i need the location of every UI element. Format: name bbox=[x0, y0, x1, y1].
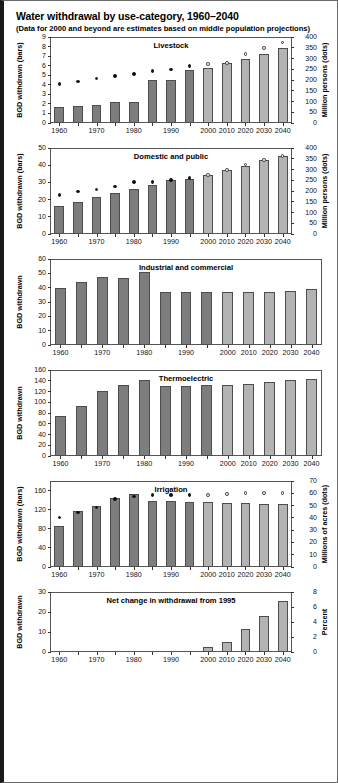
y2-tick-mark bbox=[291, 567, 294, 568]
y2-tick-label: 0 bbox=[297, 648, 317, 655]
y2-tick-mark bbox=[291, 505, 294, 506]
bar-industrial-and-commercial-2020 bbox=[264, 292, 275, 344]
dot-domestic-and-public-1985 bbox=[151, 180, 155, 184]
bar-thermoelectric-1975 bbox=[118, 385, 129, 455]
x-tick-label: 1970 bbox=[84, 238, 110, 246]
bar-industrial-and-commercial-2040 bbox=[306, 289, 317, 344]
x-tick-label: 2040 bbox=[270, 127, 296, 135]
x-tick-mark bbox=[123, 345, 124, 348]
y-tick-label: 40 bbox=[24, 431, 46, 438]
x-tick-mark bbox=[165, 345, 166, 348]
x-tick-mark bbox=[78, 652, 79, 655]
y-tick-label: 160 bbox=[24, 366, 46, 373]
bar-irrigation-2020 bbox=[241, 503, 251, 567]
bar-industrial-and-commercial-2010 bbox=[243, 292, 254, 344]
y-tick-label: 140 bbox=[24, 377, 46, 384]
bar-livestock-1975 bbox=[110, 102, 120, 123]
bar-industrial-and-commercial-1995 bbox=[201, 292, 212, 344]
y-tick-label: 40 bbox=[24, 544, 46, 551]
bar-domestic-and-public-2030 bbox=[259, 160, 269, 233]
y-tick-label: 4 bbox=[24, 81, 46, 88]
y-tick-mark bbox=[48, 103, 51, 104]
y-axis-label: BGD withdrawn (bars) bbox=[15, 37, 24, 123]
chart-panel-industrial-and-commercial: BGD withdrawnIndustrial and commercial01… bbox=[14, 259, 332, 367]
dot-livestock-1975 bbox=[113, 74, 117, 78]
y2-tick-label: 150 bbox=[297, 198, 317, 205]
x-tick-mark bbox=[123, 456, 124, 459]
y2-tick-label: 100 bbox=[297, 98, 317, 105]
dot-livestock-2030 bbox=[262, 46, 266, 50]
y2-axis-label: Millions of acres (dots) bbox=[320, 481, 329, 567]
dot-irrigation-2010 bbox=[225, 492, 229, 496]
x-tick-label: 1980 bbox=[121, 571, 147, 579]
y-tick-label: 1 bbox=[24, 109, 46, 116]
y-tick-label: 9 bbox=[24, 33, 46, 40]
y2-axis-label: Million persons (dots) bbox=[320, 37, 329, 123]
y-axis-label: BGD withdrawn bbox=[15, 370, 24, 456]
y-tick-mark bbox=[48, 445, 51, 446]
dot-domestic-and-public-1980 bbox=[132, 180, 136, 184]
y-tick-mark bbox=[48, 259, 51, 260]
y-axis-label: BGD withdrawn bbox=[15, 592, 24, 652]
y2-tick-label: 250 bbox=[297, 65, 317, 72]
y-tick-label: 3 bbox=[24, 90, 46, 97]
bar-domestic-and-public-1970 bbox=[92, 197, 102, 233]
dot-livestock-2010 bbox=[225, 61, 229, 65]
y2-tick-label: 350 bbox=[297, 44, 317, 51]
x-tick-label: 1960 bbox=[46, 127, 72, 135]
dot-irrigation-1990 bbox=[169, 493, 173, 497]
y-tick-mark bbox=[48, 345, 51, 346]
dot-domestic-and-public-2010 bbox=[225, 168, 229, 172]
y-tick-label: 50 bbox=[24, 269, 46, 276]
y-tick-label: 0 bbox=[24, 341, 46, 348]
bar-thermoelectric-2030 bbox=[285, 380, 296, 456]
y-tick-mark bbox=[48, 84, 51, 85]
y-tick-mark bbox=[48, 316, 51, 317]
bar-thermoelectric-1980 bbox=[139, 380, 150, 455]
y-tick-label: 40 bbox=[24, 161, 46, 168]
bar-thermoelectric-1995 bbox=[201, 385, 212, 455]
bar-livestock-1965 bbox=[73, 106, 83, 122]
bar-irrigation-1990 bbox=[166, 501, 176, 566]
bar-domestic-and-public-1980 bbox=[129, 189, 139, 233]
x-tick-label: 1980 bbox=[131, 460, 157, 468]
x-tick-label: 2040 bbox=[270, 571, 296, 579]
x-tick-label: 2040 bbox=[299, 460, 325, 468]
chart-title: Livestock bbox=[153, 41, 188, 50]
bar-net-change-2030 bbox=[259, 616, 269, 652]
chart-panel-livestock: BGD withdrawn (bars)Livestock01234567890… bbox=[14, 37, 332, 145]
x-tick-label: 1980 bbox=[121, 238, 147, 246]
y-tick-mark bbox=[48, 413, 51, 414]
figure-panel: Water withdrawal by use-category, 1960–2… bbox=[0, 0, 338, 783]
dot-livestock-1985 bbox=[151, 69, 155, 73]
y2-tick-label: 70 bbox=[297, 477, 317, 484]
dot-livestock-2000 bbox=[206, 62, 210, 66]
bar-domestic-and-public-2020 bbox=[241, 166, 251, 234]
y2-tick-mark bbox=[291, 123, 294, 124]
bar-livestock-2000 bbox=[203, 68, 213, 122]
y2-tick-label: 2 bbox=[297, 633, 317, 640]
x-tick-label: 1960 bbox=[46, 656, 72, 664]
bar-thermoelectric-1965 bbox=[76, 406, 87, 455]
y-tick-mark bbox=[48, 75, 51, 76]
y-tick-mark bbox=[48, 182, 51, 183]
x-tick-label: 1990 bbox=[158, 656, 184, 664]
x-tick-label: 1970 bbox=[89, 349, 115, 357]
y2-tick-mark bbox=[291, 652, 294, 653]
x-tick-label: 1960 bbox=[47, 349, 73, 357]
y2-tick-mark bbox=[291, 493, 294, 494]
x-tick-label: 1990 bbox=[158, 127, 184, 135]
x-tick-mark bbox=[81, 345, 82, 348]
y2-tick-label: 200 bbox=[297, 187, 317, 194]
x-tick-label: 1970 bbox=[84, 127, 110, 135]
x-tick-mark bbox=[207, 345, 208, 348]
bar-thermoelectric-1990 bbox=[181, 386, 192, 456]
y2-tick-label: 6 bbox=[297, 603, 317, 610]
y-tick-mark bbox=[48, 216, 51, 217]
y2-tick-label: 20 bbox=[297, 538, 317, 545]
y2-tick-label: 400 bbox=[297, 144, 317, 151]
bar-irrigation-1980 bbox=[129, 494, 139, 566]
y-tick-mark bbox=[48, 423, 51, 424]
bar-industrial-and-commercial-1960 bbox=[55, 288, 66, 345]
y-tick-label: 0 bbox=[24, 230, 46, 237]
